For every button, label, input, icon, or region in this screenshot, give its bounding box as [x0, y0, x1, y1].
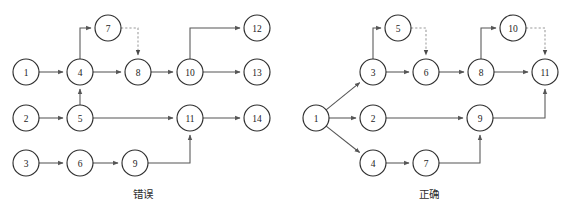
node-9[interactable]: 9	[467, 105, 493, 131]
node-label-2: 2	[371, 114, 376, 124]
node-6[interactable]: 6	[413, 59, 439, 85]
node-6[interactable]: 6	[67, 150, 93, 176]
node-label-10: 10	[185, 68, 195, 78]
node-label-5: 5	[396, 24, 401, 34]
node-8[interactable]: 8	[468, 59, 494, 85]
node-label-8: 8	[479, 68, 484, 78]
node-label-6: 6	[424, 68, 429, 78]
edge-9-to-11	[148, 135, 190, 163]
node-1[interactable]: 1	[303, 105, 329, 131]
node-2[interactable]: 2	[13, 105, 39, 131]
node-12[interactable]: 12	[244, 15, 270, 41]
node-label-2: 2	[24, 114, 29, 124]
node-7[interactable]: 7	[95, 15, 121, 41]
edge-7-to-9	[439, 135, 480, 163]
node-label-14: 14	[252, 114, 262, 124]
node-11[interactable]: 11	[177, 105, 203, 131]
node-7[interactable]: 7	[413, 150, 439, 176]
node-2[interactable]: 2	[360, 105, 386, 131]
node-1[interactable]: 1	[13, 59, 39, 85]
node-label-10: 10	[508, 24, 518, 34]
edges-layer	[39, 28, 545, 163]
node-8[interactable]: 8	[125, 59, 151, 85]
node-label-4: 4	[78, 68, 83, 78]
node-13[interactable]: 13	[244, 59, 270, 85]
node-label-7: 7	[106, 24, 111, 34]
node-label-8: 8	[136, 68, 141, 78]
node-label-4: 4	[371, 159, 376, 169]
node-14[interactable]: 14	[244, 105, 270, 131]
node-label-3: 3	[24, 159, 29, 169]
node-label-6: 6	[78, 159, 83, 169]
node-label-5: 5	[78, 114, 83, 124]
node-4[interactable]: 4	[67, 59, 93, 85]
edge-3-to-5	[373, 28, 381, 59]
node-4[interactable]: 4	[360, 150, 386, 176]
edge-10-to-12	[190, 28, 240, 59]
node-label-9: 9	[133, 159, 138, 169]
node-label-3: 3	[371, 68, 376, 78]
edge-5-to-6	[411, 28, 426, 55]
edge-8-to-10	[481, 28, 496, 59]
graph-diagram-canvas: 12345678910111213141234567891011	[0, 0, 572, 211]
figure-root: 12345678910111213141234567891011 错误 正确	[0, 0, 572, 211]
node-10[interactable]: 10	[177, 59, 203, 85]
node-label-11: 11	[540, 68, 549, 78]
node-3[interactable]: 3	[360, 59, 386, 85]
node-label-9: 9	[478, 114, 483, 124]
nodes-layer: 12345678910111213141234567891011	[13, 15, 558, 176]
edge-1-to-3	[326, 83, 360, 110]
node-9[interactable]: 9	[122, 150, 148, 176]
node-10[interactable]: 10	[500, 15, 526, 41]
node-label-12: 12	[252, 24, 262, 34]
caption-left-incorrect: 错误	[0, 186, 286, 201]
node-label-1: 1	[314, 114, 319, 124]
node-label-11: 11	[185, 114, 194, 124]
edge-9-to-11	[493, 89, 545, 118]
node-3[interactable]: 3	[13, 150, 39, 176]
caption-right-correct: 正确	[286, 186, 572, 201]
node-5[interactable]: 5	[385, 15, 411, 41]
node-label-13: 13	[252, 68, 262, 78]
node-5[interactable]: 5	[67, 105, 93, 131]
edge-7-to-8	[121, 28, 138, 55]
node-11[interactable]: 11	[532, 59, 558, 85]
edge-10-to-11	[526, 28, 545, 55]
edge-4-to-7	[80, 28, 91, 59]
edge-1-to-4	[326, 126, 359, 152]
node-label-7: 7	[424, 159, 429, 169]
node-label-1: 1	[24, 68, 29, 78]
